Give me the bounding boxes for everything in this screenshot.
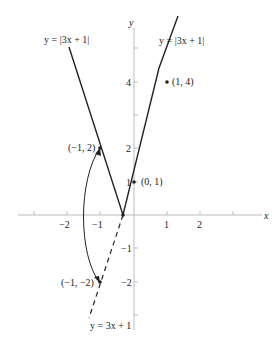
tick-label-y-1: 1: [126, 177, 131, 188]
label-1-4: (1, 4): [172, 76, 194, 88]
x-axis-label: x: [263, 210, 269, 221]
tick-label-y-m1: −1: [121, 243, 132, 254]
tick-label-x-2: 2: [197, 219, 202, 230]
label-m1-m2: (−1, −2): [61, 277, 94, 289]
tick-label-y-2: 2: [126, 143, 131, 154]
vertex-point: [121, 213, 125, 217]
label-m1-2: (−1, 2): [68, 142, 95, 154]
tick-label-x-m1: −1: [92, 219, 103, 230]
left-curve-label: y = |3x + 1|: [44, 34, 89, 45]
y-axis-label: y: [128, 17, 134, 28]
tick-label-y-4: 4: [126, 77, 131, 88]
dashed-line-label: y = 3x + 1: [90, 320, 131, 331]
tick-label-y-m2: −2: [121, 277, 132, 288]
dashed-line: [89, 215, 123, 318]
right-curve-label: y = |3x + 1|: [159, 35, 204, 46]
point-m1-2: [98, 146, 102, 150]
point-0-1: [132, 180, 136, 184]
tick-label-x-1: 1: [164, 219, 169, 230]
point-1-4: [165, 80, 169, 84]
tick-label-x-m2: −2: [59, 219, 70, 230]
graph: y = |3x + 1| y = |3x + 1| y = 3x + 1 x y…: [0, 0, 272, 349]
point-m1-m2: [98, 280, 102, 284]
label-0-1: (0, 1): [141, 176, 163, 188]
